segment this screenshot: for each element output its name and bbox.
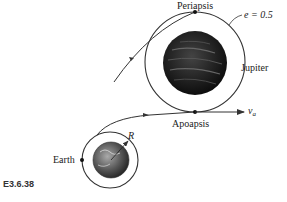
jupiter-planet xyxy=(163,31,227,95)
transfer-arrow-icon xyxy=(143,113,149,117)
figure-id: E3.6.38 xyxy=(3,179,34,189)
eccentricity-label: e = 0.5 xyxy=(244,9,273,20)
periapsis-label: Periapsis xyxy=(177,0,213,11)
earth-label: Earth xyxy=(53,154,75,165)
earth-departure-point xyxy=(80,158,84,162)
radius-label: R xyxy=(127,130,134,141)
velocity-label: va xyxy=(248,105,256,118)
apoapsis-label: Apoapsis xyxy=(172,118,209,129)
jupiter-label: Jupiter xyxy=(241,62,269,73)
eccentricity-leader xyxy=(229,15,242,25)
orbit-diagram: Periapsis e = 0.5 Jupiter Apoapsis va R … xyxy=(0,0,287,202)
